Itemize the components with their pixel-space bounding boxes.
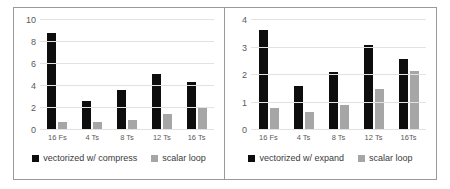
- legend-label: vectorized w/ expand: [259, 154, 344, 163]
- bar-group: [321, 20, 356, 130]
- legend-entry: vectorized w/ expand: [248, 154, 344, 163]
- bar-primary: [47, 33, 56, 130]
- y-axis-tick-label: 2: [242, 71, 247, 80]
- x-axis-tick-label: 8 Ts: [110, 133, 145, 142]
- x-axis-labels-right: 16 Fs4 Ts8 Ts12 Ts16Ts: [251, 133, 426, 142]
- bar-primary: [117, 90, 126, 130]
- bar-secondary: [198, 107, 207, 130]
- y-axis-tick-label: 2: [31, 104, 36, 113]
- bar-groups-right: [251, 20, 426, 130]
- x-axis-tick-label: 8 Ts: [321, 133, 356, 142]
- y-axis-tick-label: 4: [31, 82, 36, 91]
- x-axis-tick-label: 4 Ts: [286, 133, 321, 142]
- gridline: [251, 129, 426, 130]
- bar-group: [75, 20, 110, 130]
- y-axis-tick-label: 10: [26, 16, 36, 25]
- bar-group: [251, 20, 286, 130]
- bar-group: [144, 20, 179, 130]
- x-axis-labels-left: 16 Fs4 Ts8 Ts12 Ts16 Ts: [40, 133, 214, 142]
- x-axis-tick-label: 4 Ts: [75, 133, 110, 142]
- bar-primary: [364, 45, 373, 130]
- bar-secondary: [163, 114, 172, 130]
- bar-group: [356, 20, 391, 130]
- legend-left: vectorized w/ compressscalar loop: [14, 154, 224, 163]
- legend-label: scalar loop: [162, 154, 206, 163]
- chart-panel-right: 01234 16 Fs4 Ts8 Ts12 Ts16Ts vectorized …: [225, 8, 436, 179]
- legend-entry: scalar loop: [151, 154, 206, 163]
- gridline: [40, 63, 214, 64]
- plot-area-left: 0246810: [40, 20, 214, 130]
- legend-swatch-icon: [358, 155, 365, 162]
- bar-group: [110, 20, 145, 130]
- gridline: [40, 107, 214, 108]
- y-axis-tick-label: 0: [31, 126, 36, 135]
- x-axis-tick-label: 16Ts: [391, 133, 426, 142]
- legend-swatch-icon: [248, 155, 255, 162]
- bar-groups-left: [40, 20, 214, 130]
- bar-secondary: [270, 108, 279, 130]
- bar-secondary: [375, 89, 384, 130]
- bar-primary: [399, 59, 408, 130]
- legend-right: vectorized w/ expandscalar loop: [225, 154, 436, 163]
- bar-primary: [259, 30, 268, 130]
- gridline: [251, 47, 426, 48]
- legend-swatch-icon: [32, 155, 39, 162]
- gridline: [40, 41, 214, 42]
- plot-area-right: 01234: [251, 20, 426, 130]
- y-axis-tick-label: 6: [31, 60, 36, 69]
- bar-secondary: [305, 112, 314, 130]
- y-axis-tick-label: 0: [242, 126, 247, 135]
- gridline: [40, 129, 214, 130]
- bar-group: [391, 20, 426, 130]
- gridline: [40, 19, 214, 20]
- y-axis-tick-label: 8: [31, 38, 36, 47]
- gridline: [251, 102, 426, 103]
- bar-primary: [294, 86, 303, 130]
- y-axis-tick-label: 4: [242, 16, 247, 25]
- x-axis-tick-label: 16 Fs: [40, 133, 75, 142]
- x-axis-tick-label: 12 Ts: [356, 133, 391, 142]
- x-axis-tick-label: 12 Ts: [144, 133, 179, 142]
- y-axis-tick-label: 3: [242, 43, 247, 52]
- figure-container: 0246810 16 Fs4 Ts8 Ts12 Ts16 Ts vectoriz…: [13, 7, 437, 180]
- bar-group: [179, 20, 214, 130]
- legend-entry: vectorized w/ compress: [32, 154, 137, 163]
- gridline: [251, 74, 426, 75]
- bar-secondary: [340, 105, 349, 130]
- legend-label: scalar loop: [369, 154, 413, 163]
- bar-group: [286, 20, 321, 130]
- gridline: [251, 19, 426, 20]
- gridline: [40, 85, 214, 86]
- legend-label: vectorized w/ compress: [43, 154, 137, 163]
- x-axis-tick-label: 16 Ts: [179, 133, 214, 142]
- bar-primary: [152, 74, 161, 130]
- legend-entry: scalar loop: [358, 154, 413, 163]
- x-axis-tick-label: 16 Fs: [251, 133, 286, 142]
- y-axis-tick-label: 1: [242, 98, 247, 107]
- chart-panel-left: 0246810 16 Fs4 Ts8 Ts12 Ts16 Ts vectoriz…: [14, 8, 225, 179]
- bar-primary: [82, 101, 91, 130]
- legend-swatch-icon: [151, 155, 158, 162]
- bar-group: [40, 20, 75, 130]
